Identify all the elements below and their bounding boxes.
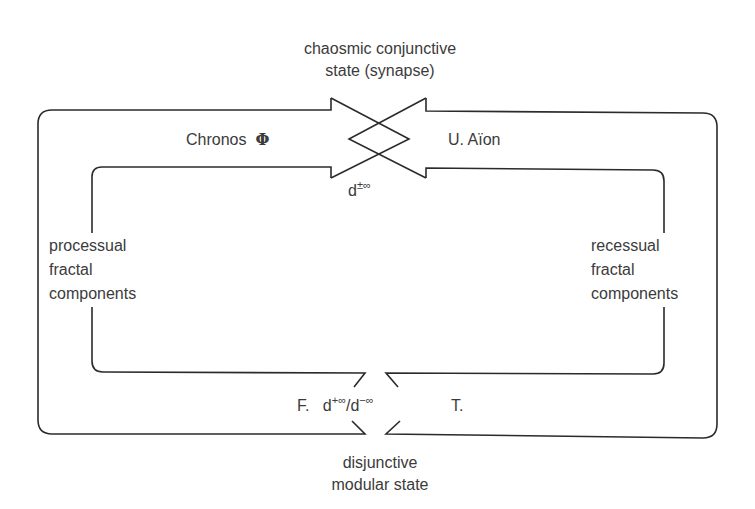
bottom-node-line1: disjunctive (270, 452, 490, 474)
right-side-line3: components (591, 282, 678, 306)
bottom-gap-label: F. d+∞/d−∞ (297, 395, 374, 418)
left-side-line1: processual (49, 234, 136, 258)
gap-right-letter: T. (451, 395, 463, 417)
gap-sup1: +∞ (332, 394, 346, 406)
phi-symbol: Φ (255, 130, 269, 149)
top-node-line2: state (synapse) (270, 60, 490, 82)
gap-sup2: −∞ (359, 394, 373, 406)
chronos-text: Chronos (186, 131, 246, 148)
aion-label: U. Aïon (448, 129, 500, 151)
aion-text: U. Aïon (448, 131, 500, 148)
gap-base2: d (350, 397, 359, 414)
crossing-superscript: ±∞ (357, 179, 371, 191)
left-side-line2: fractal (49, 258, 136, 282)
left-chevron-arrow (331, 98, 409, 178)
chronos-label: Chronos Φ (186, 129, 269, 151)
right-side-line1: recessual (591, 234, 678, 258)
left-side-label: processual fractal components (47, 233, 138, 307)
left-side-line3: components (49, 282, 136, 306)
right-chevron-arrow (349, 98, 426, 178)
top-node-label: chaosmic conjunctive state (synapse) (270, 38, 490, 82)
bottom-node-label: disjunctive modular state (270, 452, 490, 496)
right-side-line2: fractal (591, 258, 678, 282)
top-node-line1: chaosmic conjunctive (270, 38, 490, 60)
bottom-node-line2: modular state (270, 474, 490, 496)
gap-left-letter: F. (297, 397, 309, 414)
top-crossing-label: d±∞ (348, 180, 371, 203)
crossing-base: d (348, 182, 357, 199)
right-side-label: recessual fractal components (589, 233, 680, 307)
gap-base1: d (323, 397, 332, 414)
